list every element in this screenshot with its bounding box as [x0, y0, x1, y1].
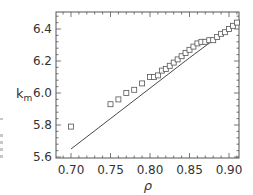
plot-frame: [56, 12, 239, 158]
axis-ticks: [56, 12, 239, 158]
data-point-marker: [69, 124, 74, 129]
data-markers: [69, 20, 240, 129]
data-point-marker: [132, 87, 137, 92]
data-point-marker: [155, 73, 160, 78]
data-point-marker: [234, 20, 239, 25]
data-point-marker: [116, 97, 121, 102]
chart: 0.700.750.800.850.90 5.65.86.06.26.4 ρ k…: [0, 0, 253, 195]
cropped-text-fragment: [0, 134, 3, 137]
x-tick-label: 0.75: [97, 163, 124, 177]
x-tick-label: 0.80: [137, 163, 164, 177]
data-point-marker: [124, 91, 129, 96]
y-tick-label: 5.6: [33, 150, 52, 164]
x-tick-label: 0.70: [58, 163, 85, 177]
cropped-text-fragment: [0, 141, 3, 144]
cropped-text-fragment: [0, 118, 3, 120]
cropped-text-fragment: [0, 148, 3, 151]
y-tick-label: 5.8: [33, 118, 52, 132]
y-tick-label: 6.4: [33, 22, 52, 36]
cropped-text-fragment: [0, 155, 3, 158]
plot-border: [56, 12, 239, 158]
y-tick-label: 6.0: [33, 86, 52, 100]
data-point-marker: [108, 102, 113, 107]
x-axis-label: ρ: [144, 178, 153, 193]
y-tick-labels: 5.65.86.06.26.4: [33, 22, 52, 164]
y-axis-label-subscript: m: [24, 93, 33, 103]
x-tick-label: 0.90: [216, 163, 243, 177]
x-tick-label: 0.85: [176, 163, 203, 177]
x-tick-labels: 0.700.750.800.850.90: [58, 163, 243, 177]
data-point-marker: [140, 81, 145, 86]
y-axis-label: km: [16, 86, 32, 103]
y-tick-label: 6.2: [33, 54, 52, 68]
